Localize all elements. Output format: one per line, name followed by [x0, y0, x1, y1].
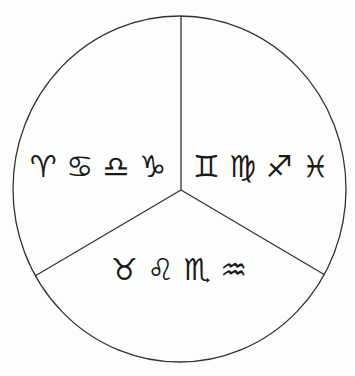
zodiac-sector-diagram: ♈︎ ♋︎ ♎︎ ♑︎ ♊︎ ♍︎ ♐︎ ♓︎ ♉︎ ♌︎ ♏︎ ♒︎	[0, 0, 355, 376]
outer-circle	[13, 16, 346, 362]
sector-bottom-signs: ♉︎ ♌︎ ♏︎ ♒︎	[111, 252, 247, 287]
sector-upper-right-signs: ♊︎ ♍︎ ♐︎ ♓︎	[193, 149, 329, 184]
sector-upper-left-signs: ♈︎ ♋︎ ♎︎ ♑︎	[30, 149, 166, 184]
